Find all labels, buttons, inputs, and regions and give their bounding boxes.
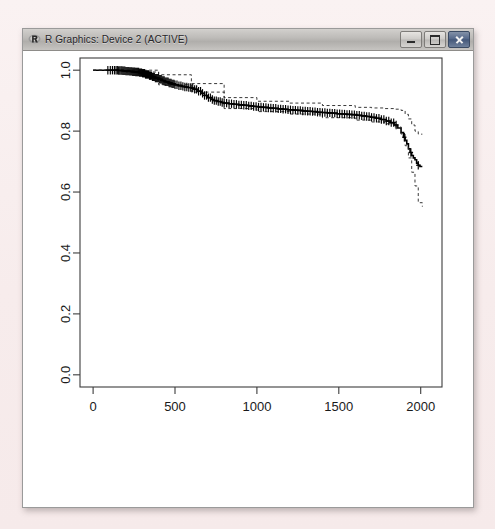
r-logo-icon — [27, 33, 41, 47]
x-tick-label: 2000 — [406, 399, 435, 414]
maximize-button[interactable] — [424, 31, 446, 48]
close-button[interactable] — [448, 31, 470, 48]
window-titlebar[interactable]: R Graphics: Device 2 (ACTIVE) — [23, 29, 473, 51]
confidence-band-line — [93, 70, 422, 206]
y-tick-label: 0.0 — [59, 366, 74, 384]
minimize-button[interactable] — [400, 31, 422, 48]
y-tick-label: 0.6 — [59, 183, 74, 201]
maximize-icon — [430, 35, 440, 45]
x-tick-label: 0 — [89, 399, 96, 414]
r-graphics-window: R Graphics: Device 2 (ACTIVE) 0500100015… — [22, 28, 474, 508]
censor-marks — [106, 66, 421, 169]
graphics-device-canvas: 05001000150020000.00.20.40.60.81.0 — [23, 51, 473, 507]
desktop-background: R Graphics: Device 2 (ACTIVE) 0500100015… — [0, 0, 495, 529]
close-icon — [455, 35, 464, 44]
window-title: R Graphics: Device 2 (ACTIVE) — [45, 34, 400, 45]
minimize-icon — [407, 41, 415, 43]
x-tick-label: 1000 — [242, 399, 271, 414]
survival-plot: 05001000150020000.00.20.40.60.81.0 — [23, 51, 471, 507]
y-tick-label: 0.4 — [59, 244, 74, 262]
survival-curve-line — [93, 70, 422, 166]
y-tick-label: 0.2 — [59, 305, 74, 323]
window-controls — [400, 31, 470, 48]
x-tick-label: 500 — [164, 399, 186, 414]
y-tick-label: 1.0 — [59, 61, 74, 79]
x-tick-label: 1500 — [324, 399, 353, 414]
confidence-band-line — [93, 70, 422, 134]
y-tick-label: 0.8 — [59, 122, 74, 140]
